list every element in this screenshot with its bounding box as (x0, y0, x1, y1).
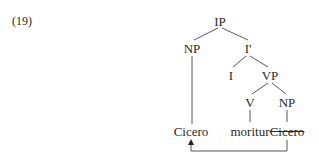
edge-ibar-vp (250, 56, 268, 67)
node-np-object: NP (279, 96, 296, 109)
edge-ip-np (194, 28, 218, 40)
leaf-moritur: moritur (231, 125, 270, 138)
movement-arrow-line (191, 140, 287, 151)
edge-ip-ibar (222, 28, 248, 40)
edge-vp-np (272, 83, 286, 94)
leaf-cicero-trace: Cicero (270, 125, 305, 138)
node-i-bar: I' (245, 42, 252, 55)
node-np-subject: NP (184, 42, 201, 55)
node-v: V (245, 96, 254, 109)
node-vp: VP (262, 69, 279, 82)
node-i: I (229, 69, 233, 82)
node-ip: IP (214, 15, 226, 28)
arrowhead-icon (188, 139, 194, 145)
leaf-cicero: Cicero (174, 125, 209, 138)
edge-ibar-i (233, 56, 246, 67)
edge-vp-v (252, 83, 268, 94)
